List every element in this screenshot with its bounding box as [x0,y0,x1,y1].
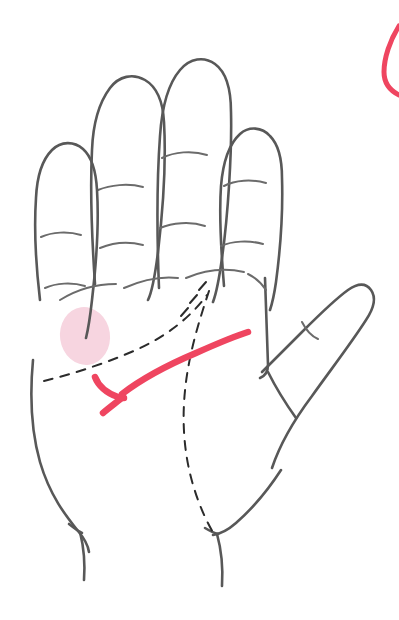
cropped-red-circle-arc [384,26,399,95]
palmar-crease-branch-highlight [95,377,124,398]
palm-short-dash-3 [181,308,188,316]
palm-short-dash-2 [190,295,197,303]
palm-outline-right [260,278,268,378]
palmar-crease-tail-highlight [103,397,123,413]
hand-illustration-canvas [0,0,399,620]
index-finger-crease-1 [98,185,143,190]
distal-palmar-crease-highlight [122,332,248,394]
palm-outline-lower-right [213,470,281,535]
palm-crease-group [60,270,266,300]
palm-crease-1 [60,284,116,300]
dashed-thenar-boundary [184,291,214,534]
palm-crease-2 [124,277,178,288]
middle-finger-crease-1 [162,152,207,158]
palm-crease-4 [248,274,266,290]
middle-finger-crease-2 [160,223,205,228]
palm-crease-3 [186,270,244,278]
palm-short-dash-1 [199,282,206,290]
palm-outline-left [31,360,89,552]
index-finger-crease-2 [100,243,143,248]
thumb-outline [262,285,374,468]
wrist-outline-right [217,534,222,586]
fingers-group [35,59,282,338]
thumb-base-outline [268,372,296,418]
palm-illustration-root [0,0,399,620]
wrist-tick-left [69,524,82,533]
ring-finger-crease-2 [45,284,85,288]
ring-finger-crease-1 [41,233,81,237]
hypothenar-eminence-highlight [56,304,114,368]
middle-finger-outline [158,59,232,302]
little-finger-crease-2 [221,242,263,246]
